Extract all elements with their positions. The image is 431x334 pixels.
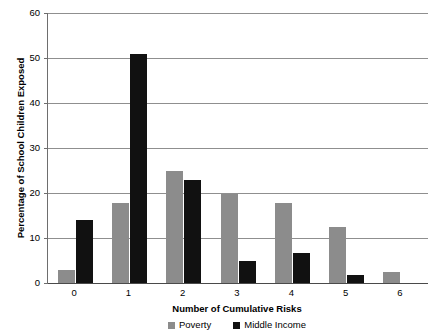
bar-middle-income-1: [130, 54, 147, 283]
legend-swatch-icon: [233, 322, 240, 329]
bar-chart-figure: Percentage of School Children Exposed 01…: [0, 0, 431, 334]
legend-entry-middle-income: Middle Income: [233, 320, 306, 330]
y-axis-tickmark: [44, 238, 48, 239]
gridline: [48, 13, 428, 14]
gridline: [48, 283, 428, 284]
x-axis-tick-label: 5: [326, 287, 366, 298]
y-axis-tick-label: 30: [14, 143, 40, 153]
y-axis-tick-labels: 0102030405060: [14, 0, 40, 334]
bar-poverty-4: [275, 203, 292, 283]
gridline: [48, 58, 428, 59]
y-axis-tick-label: 40: [14, 98, 40, 108]
gridline: [48, 238, 428, 239]
y-axis-tick-label: 20: [14, 188, 40, 198]
legend-entry-poverty: Poverty: [168, 320, 211, 330]
y-axis-tickmark: [44, 13, 48, 14]
legend-swatch-icon: [168, 322, 175, 329]
bar-middle-income-4: [293, 253, 310, 283]
bar-poverty-5: [329, 227, 346, 283]
x-axis-title: Number of Cumulative Risks: [47, 303, 427, 314]
bar-poverty-6: [383, 272, 400, 283]
bar-middle-income-2: [184, 180, 201, 283]
bar-middle-income-5: [347, 275, 364, 283]
gridline: [48, 103, 428, 104]
x-axis-tick-label: 4: [271, 287, 311, 298]
y-axis-tick-label: 10: [14, 233, 40, 243]
y-axis-tickmark: [44, 58, 48, 59]
cropped-title-remnant: [0, 0, 431, 8]
y-axis-tickmark: [44, 103, 48, 104]
y-axis-tickmark: [44, 283, 48, 284]
x-axis-tick-label: 3: [217, 287, 257, 298]
x-axis-tick-label: 1: [108, 287, 148, 298]
gridline: [48, 148, 428, 149]
legend-label: Poverty: [179, 320, 211, 330]
bar-poverty-0: [58, 270, 75, 284]
y-axis-tickmark: [44, 148, 48, 149]
bar-middle-income-3: [239, 261, 256, 283]
x-axis-tick-label: 6: [380, 287, 420, 298]
bar-poverty-1: [112, 203, 129, 283]
x-axis-tick-label: 0: [54, 287, 94, 298]
bar-poverty-3: [221, 194, 238, 283]
x-axis-tick-label: 2: [163, 287, 203, 298]
legend-label: Middle Income: [244, 320, 306, 330]
chart-legend: PovertyMiddle Income: [47, 320, 427, 330]
gridline: [48, 193, 428, 194]
y-axis-tick-label: 60: [14, 8, 40, 18]
plot-area: [47, 13, 428, 283]
bar-poverty-2: [166, 171, 183, 283]
y-axis-tick-label: 50: [14, 53, 40, 63]
y-axis-tick-label: 0: [14, 278, 40, 288]
y-axis-tickmark: [44, 193, 48, 194]
bar-middle-income-0: [76, 220, 93, 283]
